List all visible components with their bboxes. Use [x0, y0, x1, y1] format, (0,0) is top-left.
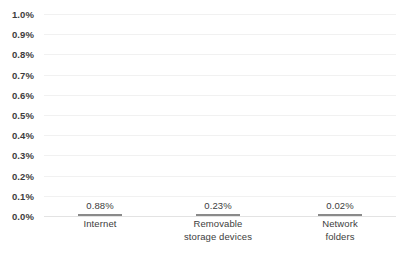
x-category-label-internet: Internet — [40, 218, 160, 231]
gridline — [44, 135, 396, 136]
y-tick-label: 0.2% — [12, 170, 34, 181]
y-tick-label: 0.5% — [12, 110, 34, 121]
gridline — [44, 196, 396, 197]
gridline — [44, 115, 396, 116]
gridline — [44, 54, 396, 55]
y-tick-label: 0.7% — [12, 69, 34, 80]
y-tick-label: 0.4% — [12, 130, 34, 141]
bar-removable-storage-devices[interactable] — [196, 214, 240, 216]
x-category-line: Removable — [158, 218, 278, 231]
y-tick-label: 0.6% — [12, 89, 34, 100]
x-category-line: Internet — [40, 218, 160, 231]
x-axis-baseline — [44, 216, 396, 217]
y-tick-label: 0.3% — [12, 150, 34, 161]
gridline — [44, 155, 396, 156]
gridline — [44, 75, 396, 76]
plot-area: 0.88% 0.23% 0.02% — [44, 14, 396, 216]
bar-value-label: 0.23% — [204, 200, 231, 211]
gridline — [44, 34, 396, 35]
bar-internet[interactable] — [78, 214, 122, 216]
y-tick-label: 0.9% — [12, 29, 34, 40]
x-category-label-removable-storage-devices: Removable storage devices — [158, 218, 278, 243]
bar-network-folders[interactable] — [318, 214, 362, 216]
gridline — [44, 176, 396, 177]
bar-chart: 1.0% 0.9% 0.8% 0.7% 0.6% 0.5% 0.4% 0.3% … — [0, 0, 405, 255]
x-category-line: storage devices — [158, 231, 278, 244]
bar-value-label: 0.88% — [86, 200, 113, 211]
y-tick-label: 0.8% — [12, 49, 34, 60]
y-axis: 1.0% 0.9% 0.8% 0.7% 0.6% 0.5% 0.4% 0.3% … — [0, 14, 40, 216]
bar-value-label: 0.02% — [326, 200, 353, 211]
x-category-label-network-folders: Network folders — [280, 218, 400, 243]
gridline — [44, 14, 396, 15]
x-axis: Internet Removable storage devices Netwo… — [44, 218, 396, 254]
x-category-line: folders — [280, 231, 400, 244]
x-category-line: Network — [280, 218, 400, 231]
y-tick-label: 0.0% — [12, 211, 34, 222]
y-tick-label: 0.1% — [12, 190, 34, 201]
gridline — [44, 95, 396, 96]
y-tick-label: 1.0% — [12, 9, 34, 20]
